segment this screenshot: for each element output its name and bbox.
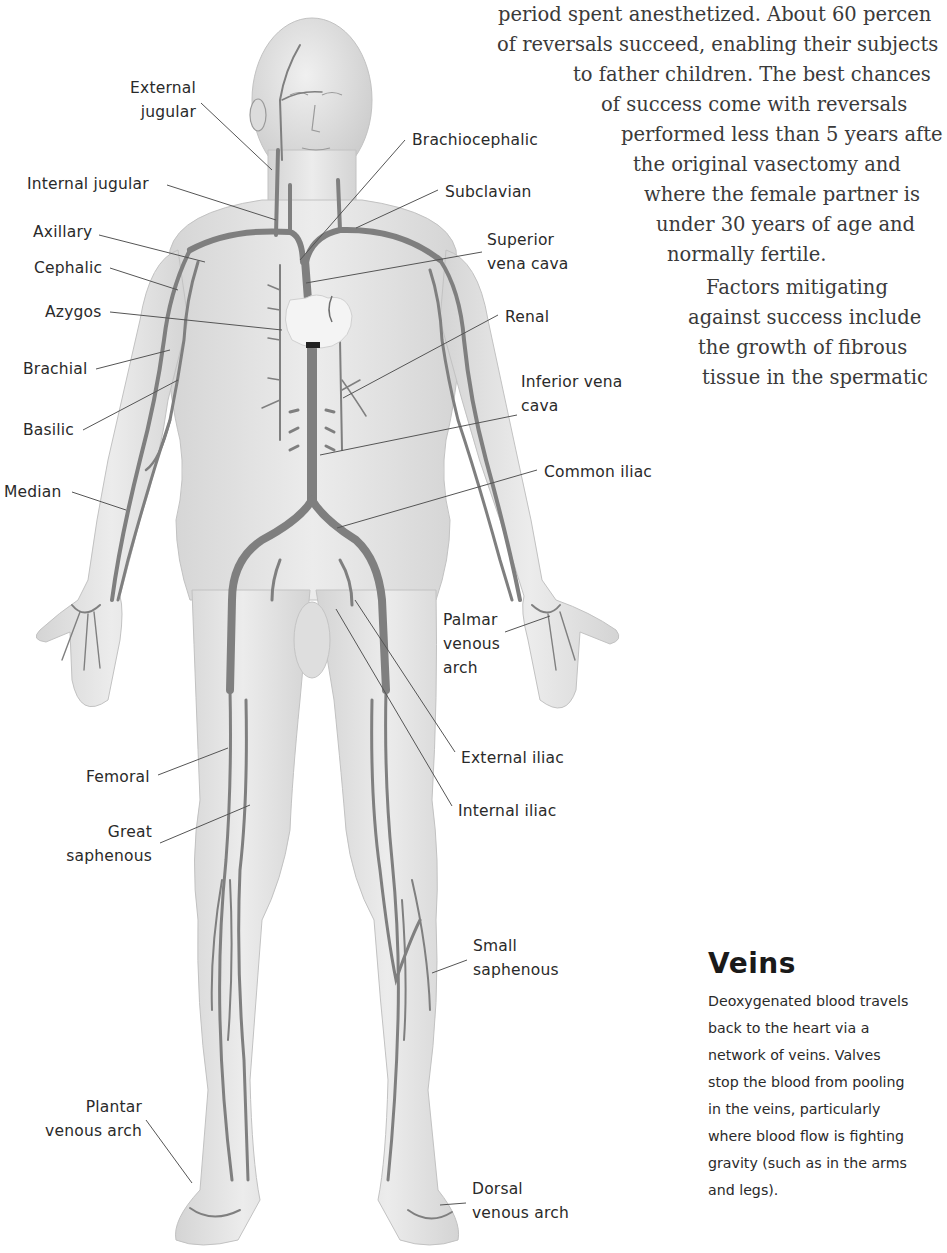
article-line: the original vasectomy and (633, 150, 901, 180)
label-azygos: Azygos (45, 300, 102, 324)
article-line: against success include (688, 303, 921, 333)
article-line: period spent anesthetized. About 60 perc… (498, 0, 931, 30)
label-small-saphenous: Small saphenous (473, 934, 559, 982)
label-palmar-venous-arch: Palmar venous arch (443, 608, 500, 680)
label-inferior-vena-cava: Inferior vena cava (521, 370, 622, 418)
label-subclavian: Subclavian (445, 180, 532, 204)
article-line: tissue in the spermatic (702, 363, 928, 393)
label-cephalic: Cephalic (34, 256, 102, 280)
label-median: Median (4, 480, 62, 504)
label-superior-vena-cava: Superior vena cava (487, 228, 568, 276)
article-line: normally fertile. (667, 240, 827, 270)
label-brachiocephalic: Brachiocephalic (412, 128, 538, 152)
label-external-iliac: External iliac (461, 746, 564, 770)
label-femoral: Femoral (86, 765, 150, 789)
article-line: performed less than 5 years afte (621, 120, 943, 150)
sidebar-line: network of veins. Valves (708, 1044, 881, 1066)
label-external-jugular: External jugular (110, 76, 196, 124)
sidebar-line: stop the blood from pooling (708, 1071, 905, 1093)
sidebar-title: Veins (708, 947, 796, 980)
sidebar-line: where blood flow is fighting (708, 1125, 904, 1147)
article-line: to father children. The best chances (573, 60, 931, 90)
label-renal: Renal (505, 305, 549, 329)
article-line: Factors mitigating (706, 273, 888, 303)
label-internal-jugular: Internal jugular (27, 172, 149, 196)
article-line: where the female partner is (644, 180, 920, 210)
sidebar-line: and legs). (708, 1179, 778, 1201)
label-axillary: Axillary (33, 220, 92, 244)
sidebar-line: back to the heart via a (708, 1017, 869, 1039)
article-line: of reversals succeed, enabling their sub… (497, 30, 938, 60)
sidebar-line: Deoxygenated blood travels (708, 990, 908, 1012)
book-page: External jugular Internal jugular Axilla… (0, 0, 947, 1253)
heart (285, 295, 352, 348)
label-brachial: Brachial (23, 357, 88, 381)
article-line: of success come with reversals (601, 90, 907, 120)
article-line: under 30 years of age and (656, 210, 915, 240)
sidebar-line: gravity (such as in the arms (708, 1152, 907, 1174)
label-common-iliac: Common iliac (544, 460, 652, 484)
label-dorsal-venous-arch: Dorsal venous arch (472, 1177, 569, 1225)
sidebar-line: in the veins, particularly (708, 1098, 880, 1120)
article-line: the growth of fibrous (698, 333, 907, 363)
label-internal-iliac: Internal iliac (458, 799, 556, 823)
label-basilic: Basilic (23, 418, 74, 442)
label-great-saphenous: Great saphenous (56, 820, 152, 868)
left-leg (176, 590, 311, 1245)
label-plantar-venous-arch: Plantar venous arch (38, 1095, 142, 1143)
